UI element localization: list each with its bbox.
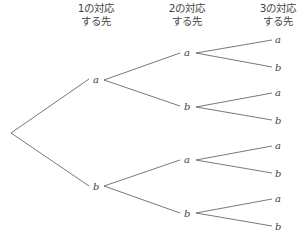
edge bbox=[196, 160, 272, 173]
node-l3-3: b bbox=[275, 115, 281, 126]
node-l3-5: b bbox=[275, 168, 281, 179]
edge bbox=[196, 40, 272, 53]
node-l3-4: a bbox=[275, 140, 281, 151]
edge bbox=[104, 160, 180, 186]
node-l2-1: b bbox=[184, 101, 190, 112]
node-l3-2: a bbox=[275, 87, 281, 98]
edge bbox=[11, 133, 89, 186]
edge bbox=[104, 186, 180, 213]
edge bbox=[196, 107, 272, 120]
node-l1-0: a bbox=[93, 74, 99, 85]
tree-diagram: a b a b a b a b a b a b a b bbox=[0, 0, 303, 238]
node-l3-6: a bbox=[275, 193, 281, 204]
node-l3-0: a bbox=[275, 34, 281, 45]
node-l2-0: a bbox=[184, 47, 190, 58]
node-l2-2: a bbox=[184, 154, 190, 165]
edge bbox=[196, 53, 272, 67]
edge bbox=[104, 80, 180, 106]
node-l1-1: b bbox=[93, 181, 99, 192]
edge bbox=[196, 93, 272, 107]
node-l3-1: b bbox=[275, 62, 281, 73]
edge bbox=[196, 199, 272, 213]
edge bbox=[104, 53, 180, 80]
edge bbox=[196, 146, 272, 160]
edge bbox=[196, 213, 272, 226]
node-l2-3: b bbox=[184, 208, 190, 219]
node-l3-7: b bbox=[275, 221, 281, 232]
edge bbox=[11, 79, 89, 133]
